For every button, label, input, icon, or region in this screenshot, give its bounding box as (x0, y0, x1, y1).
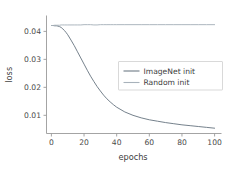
legend-label-random-init: Random init (144, 78, 190, 87)
chart-figure: 0.010.020.030.04 020406080100 epochs los… (0, 0, 229, 174)
line-chart: 0.010.020.030.04 020406080100 epochs los… (0, 0, 229, 174)
chart-legend[interactable]: ImageNet initRandom init (119, 62, 223, 91)
x-tick-label: 20 (79, 138, 89, 147)
y-tick-label: 0.04 (24, 27, 41, 36)
y-tick-label: 0.02 (24, 83, 41, 92)
x-tick-label: 80 (177, 138, 187, 147)
x-tick-label: 60 (144, 138, 154, 147)
y-tick-label: 0.03 (24, 55, 41, 64)
y-axis-title: loss (4, 67, 14, 83)
x-tick-label: 100 (207, 138, 222, 147)
y-tick-label: 0.01 (24, 111, 41, 120)
x-axis-title: epochs (118, 152, 147, 162)
x-tick-label: 40 (112, 138, 122, 147)
legend-label-imagenet-init: ImageNet init (144, 67, 196, 76)
x-tick-label: 0 (49, 138, 54, 147)
